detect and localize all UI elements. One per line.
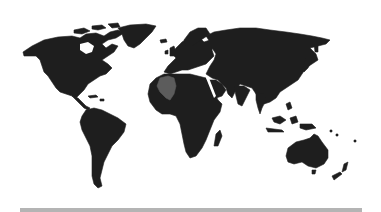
continent-greenland[interactable] (118, 24, 156, 48)
southeast-asia (256, 92, 266, 114)
continent-south-america[interactable] (80, 108, 126, 188)
sakhalin (314, 44, 318, 52)
madagascar (214, 130, 222, 146)
pacific-islands (330, 130, 356, 142)
indonesia (266, 102, 316, 132)
iceland (160, 39, 167, 43)
new-zealand (332, 162, 348, 180)
bottom-bar (20, 208, 362, 212)
continent-north-america[interactable] (23, 30, 124, 98)
continent-australia[interactable] (286, 134, 328, 168)
india (234, 86, 250, 106)
world-map: World map Algeria (0, 0, 381, 212)
caribbean-islands (88, 95, 104, 101)
central-america (72, 96, 90, 110)
united-kingdom (165, 46, 176, 56)
tasmania (312, 170, 316, 174)
